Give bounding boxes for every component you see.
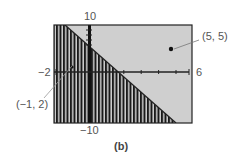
figure-caption: (b) <box>114 140 128 152</box>
point-a-label: (−1, 2) <box>16 98 48 110</box>
point-b-label: (5, 5) <box>202 30 228 42</box>
graph-canvas <box>0 0 235 162</box>
ymin-label: −10 <box>80 124 99 136</box>
xmax-label: 6 <box>196 66 202 78</box>
xmin-label: −2 <box>38 66 51 78</box>
ymax-label: 10 <box>84 10 96 22</box>
point-5-5 <box>169 47 173 51</box>
